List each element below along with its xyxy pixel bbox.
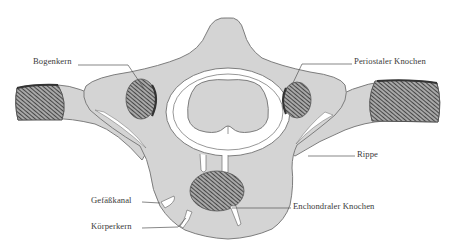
label-koerperkern: Körperkern [91,222,132,231]
right-rib-cartilage-hatch [370,80,440,122]
leader-gefaesskanal [142,202,160,203]
spinal-cord [188,80,269,133]
left-rib-cartilage-hatch [16,85,65,120]
label-gefaesskanal: Gefäßkanal [91,196,132,205]
body-ossification-center [190,171,244,211]
arch-ossification-right [283,82,311,118]
label-rippe: Rippe [357,150,378,159]
label-bogenkern: Bogenkern [33,57,72,66]
arch-ossification-left [126,79,156,119]
label-periostaler-knochen: Periostaler Knochen [354,57,426,66]
label-enchondraler-knochen: Enchondraler Knochen [293,202,374,211]
vertebra-diagram [0,0,455,245]
